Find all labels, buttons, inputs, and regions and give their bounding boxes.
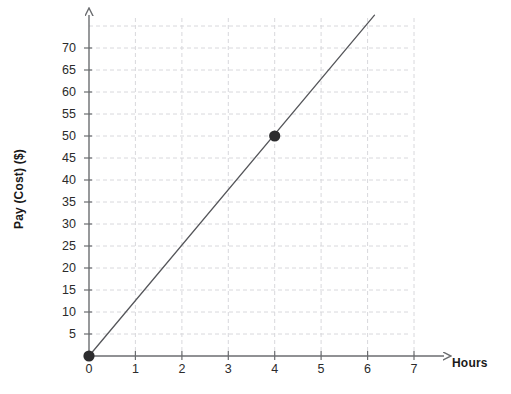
y-tick-label: 20 xyxy=(50,261,76,275)
y-tick-label: 10 xyxy=(50,305,76,319)
x-tick-label: 5 xyxy=(311,362,331,376)
y-tick-label: 60 xyxy=(50,85,76,99)
chart-plot-area xyxy=(0,0,511,394)
y-tick-label: 55 xyxy=(50,107,76,121)
data-line-pay xyxy=(89,15,375,356)
x-axis-title: Hours xyxy=(452,356,488,370)
y-tick-label: 50 xyxy=(50,129,76,143)
data-point-4-50 xyxy=(269,130,280,141)
data-point-origin xyxy=(83,350,94,361)
x-tick-label: 3 xyxy=(218,362,238,376)
x-tick-label: 6 xyxy=(358,362,378,376)
y-tick-label: 40 xyxy=(50,173,76,187)
y-axis-title: Pay (Cost) ($) xyxy=(12,129,26,249)
y-tick-label: 30 xyxy=(50,217,76,231)
y-tick-label: 15 xyxy=(50,283,76,297)
y-tick-label: 45 xyxy=(50,151,76,165)
y-axis-ticks xyxy=(84,48,92,334)
y-tick-label: 65 xyxy=(50,63,76,77)
chart-container: Pay (Cost) ($) Hours 5 10 15 20 25 30 35… xyxy=(0,0,511,394)
x-tick-label: 1 xyxy=(125,362,145,376)
x-tick-label: 0 xyxy=(79,362,99,376)
y-tick-label: 70 xyxy=(50,41,76,55)
y-tick-label: 5 xyxy=(50,327,76,341)
vertical-gridlines xyxy=(135,18,414,356)
x-tick-label: 4 xyxy=(265,362,285,376)
x-tick-label: 2 xyxy=(172,362,192,376)
horizontal-gridlines xyxy=(89,26,411,334)
y-tick-label: 25 xyxy=(50,239,76,253)
y-tick-label: 35 xyxy=(50,195,76,209)
x-tick-label: 7 xyxy=(404,362,424,376)
